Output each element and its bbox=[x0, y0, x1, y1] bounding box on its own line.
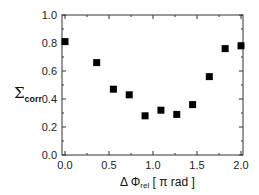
y-tick-label: 0.4 bbox=[42, 93, 57, 105]
data-point bbox=[142, 112, 149, 119]
plot-frame bbox=[62, 15, 243, 155]
y-tick-label: 0.2 bbox=[42, 121, 57, 133]
data-point bbox=[126, 91, 133, 98]
x-tick-label: 1.5 bbox=[189, 159, 204, 171]
y-tick-label: 0.8 bbox=[42, 37, 57, 49]
y-tick-label: 0.0 bbox=[42, 149, 57, 161]
data-point bbox=[189, 101, 196, 108]
y-tick-label: 1.0 bbox=[42, 9, 57, 21]
data-point bbox=[206, 73, 213, 80]
y-tick-label: 0.6 bbox=[42, 65, 57, 77]
data-point bbox=[222, 45, 229, 52]
data-point bbox=[110, 86, 117, 93]
x-tick-label: 0.5 bbox=[101, 159, 116, 171]
data-point bbox=[62, 38, 69, 45]
x-tick-label: 1.0 bbox=[145, 159, 160, 171]
data-point bbox=[238, 42, 245, 49]
x-tick-label: 0.0 bbox=[57, 159, 72, 171]
x-axis-label: Δ Φrel [ π rad ] bbox=[120, 175, 195, 190]
data-point bbox=[93, 59, 100, 66]
data-point bbox=[157, 107, 164, 114]
x-tick-label: 2.0 bbox=[233, 159, 248, 171]
data-point bbox=[173, 111, 180, 118]
y-axis-label: Σcorr bbox=[14, 84, 42, 104]
